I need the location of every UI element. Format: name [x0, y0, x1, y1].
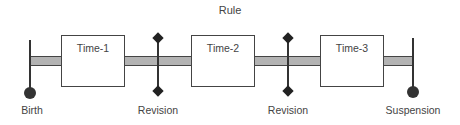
timeline-bar-segment — [384, 56, 413, 66]
event-label-birth: Birth — [0, 104, 72, 116]
diagram-title: Rule — [0, 4, 460, 16]
revision-diamond-icon — [282, 32, 293, 43]
birth-circle-icon — [24, 87, 36, 99]
event-label-revision: Revision — [118, 104, 198, 116]
period-box-time-1: Time-1 — [61, 35, 125, 87]
revision-line — [287, 38, 289, 92]
event-label-suspension: Suspension — [373, 104, 453, 116]
event-label-revision: Revision — [248, 104, 328, 116]
suspension-line — [412, 38, 414, 90]
suspension-circle-icon — [407, 86, 419, 98]
birth-line — [29, 40, 31, 90]
period-label: Time-3 — [321, 42, 383, 54]
timeline-bar-segment — [31, 56, 62, 66]
period-box-time-2: Time-2 — [191, 35, 255, 87]
revision-diamond-icon — [152, 85, 163, 96]
period-label: Time-2 — [192, 42, 254, 54]
revision-diamond-icon — [282, 85, 293, 96]
revision-diamond-icon — [152, 32, 163, 43]
period-label: Time-1 — [62, 42, 124, 54]
revision-line — [157, 38, 159, 92]
period-box-time-3: Time-3 — [320, 35, 384, 87]
